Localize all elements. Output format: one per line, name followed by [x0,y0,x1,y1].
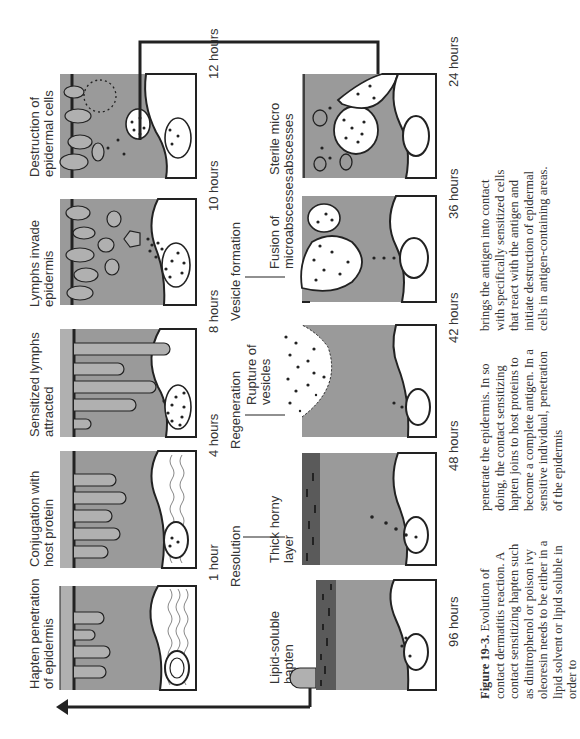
time-label: 36 hours [446,168,461,219]
label-line: Thick horny [268,496,282,563]
figure-caption-col2: penetrate the epidermis. In so doing, th… [478,346,565,511]
label-line: vesicles [259,344,273,405]
label-line: Lipid-soluble [268,611,282,684]
caption-text: penetrate the epidermis. In so doing, th… [478,349,565,511]
caption-text: brings the antigen into contact with spe… [478,166,550,331]
time-label: 48 hours [446,420,461,471]
figure-number: Figure 19-3. [478,635,492,699]
label-sterile-micro-abscesses: Sterile micro abscesses [268,103,296,175]
label-line: abscesses [282,103,296,175]
time-label: 96 hours [446,596,461,647]
label-thick-horny-layer: Thick horny layer [268,496,296,563]
panel-thick-horny-layer [302,453,436,565]
panel-lipid-soluble-hapten [298,580,436,690]
figure-caption-col3: brings the antigen into contact with spe… [478,166,551,331]
label-fusion-of-microabscesses: Fusion of microabscesses [268,176,296,269]
label-line: Fusion of [268,176,282,269]
label-rupture-of-vesicles: Rupture of vesicles [245,344,273,405]
panel-fusion-of-microabscesses [302,196,436,302]
panel-sterile-micro-abscesses [302,74,436,178]
label-line: microabscesses [282,176,296,269]
figure-caption-col1: Figure 19-3. Evolution of contact dermat… [478,534,580,699]
arrow-up-icon [56,699,68,715]
label-line: Sterile micro [268,103,282,175]
panel-rupture-of-vesicles [282,325,436,437]
time-label: 42 hours [446,292,461,343]
caption-text: Evolution of contact dermatitis reaction… [478,541,579,699]
time-label: 24 hours [446,36,461,87]
label-line: Rupture of [245,344,259,405]
label-line: layer [282,496,296,563]
